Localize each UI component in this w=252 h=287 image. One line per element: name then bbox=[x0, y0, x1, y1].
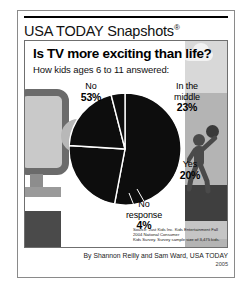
headline: Is TV more exciting than life? bbox=[33, 46, 193, 62]
label-no-response: No response 4% bbox=[117, 199, 171, 231]
tv-floor-shape bbox=[24, 211, 61, 248]
label-noresponse-line1: No bbox=[117, 199, 171, 210]
headline-block: Is TV more exciting than life? How kids … bbox=[33, 46, 193, 76]
tv-base-shape bbox=[24, 187, 61, 197]
label-middle-line1: In the bbox=[165, 81, 209, 92]
source-note: Source: Just Kids Inc. Kids Entertainmen… bbox=[133, 227, 225, 242]
label-in-the-middle: In the middle 23% bbox=[165, 81, 209, 113]
label-no-category: No bbox=[71, 81, 111, 92]
label-yes: Yes 20% bbox=[173, 159, 207, 180]
masthead-title: USA TODAY Snapshots® bbox=[24, 18, 228, 40]
subhead: How kids ages 6 to 11 answered: bbox=[33, 63, 193, 76]
label-yes-percent: 20% bbox=[173, 170, 207, 181]
label-yes-category: Yes bbox=[173, 159, 207, 170]
label-middle-percent: 23% bbox=[165, 102, 209, 113]
byline-year: 2005 bbox=[24, 260, 228, 269]
label-no-percent: 53% bbox=[71, 92, 111, 103]
usa-today-snapshot-graphic: USA TODAY Snapshots® bbox=[0, 0, 252, 287]
source-line-2: Kids Survey. Survey sample size of 3,475… bbox=[133, 237, 225, 242]
byline: By Shannon Reilly and Sam Ward, USA TODA… bbox=[24, 251, 228, 269]
registered-mark-icon: ® bbox=[174, 23, 180, 32]
masthead: USA TODAY Snapshots® bbox=[24, 16, 228, 40]
masthead-title-text: USA TODAY Snapshots bbox=[24, 23, 174, 39]
pie-slice-in-the-middle bbox=[69, 145, 125, 204]
bottom-rule bbox=[17, 277, 235, 278]
byline-text: By Shannon Reilly and Sam Ward, USA TODA… bbox=[84, 252, 228, 259]
label-no: No 53% bbox=[71, 81, 111, 102]
source-line-1: Source: Just Kids Inc. Kids Entertainmen… bbox=[133, 227, 225, 237]
tv-neck-shape bbox=[30, 174, 43, 188]
chart-panel: Is TV more exciting than life? How kids … bbox=[24, 40, 228, 248]
